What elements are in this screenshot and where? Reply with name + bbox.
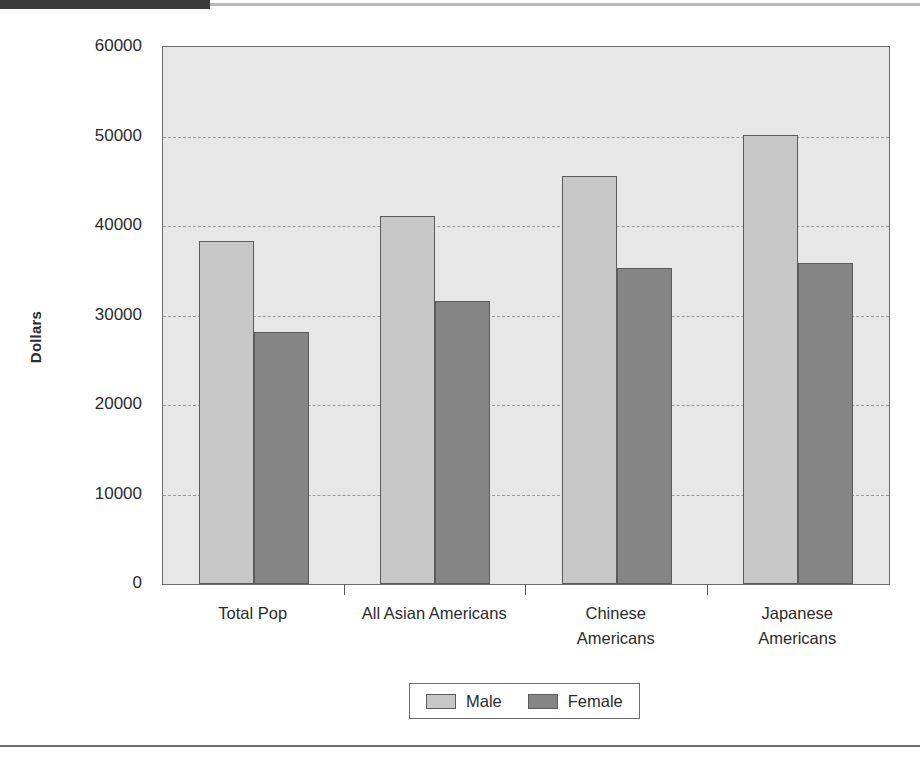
x-axis-label-line: Americans xyxy=(707,626,889,651)
page-bottom-rule xyxy=(0,745,920,747)
bar-female-3 xyxy=(798,263,853,584)
bar-female-0 xyxy=(254,332,309,584)
y-tick-label: 40000 xyxy=(56,216,142,233)
x-axis-label-line: Japanese xyxy=(707,601,889,626)
x-axis-label-line: Total Pop xyxy=(162,601,344,626)
y-tick-label: 20000 xyxy=(56,395,142,412)
legend-label: Female xyxy=(568,692,623,711)
bar-chart-figure: Dollars 6000050000400003000020000100000 … xyxy=(0,12,920,742)
x-axis-label-2: ChineseAmericans xyxy=(525,601,707,651)
legend-entry-male: Male xyxy=(426,692,502,711)
bar-male-3 xyxy=(743,135,798,584)
page-top-dark-tab xyxy=(0,0,210,9)
bar-male-2 xyxy=(562,176,617,584)
legend-label: Male xyxy=(466,692,502,711)
x-axis-label-line: Chinese xyxy=(525,601,707,626)
y-axis-title: Dollars xyxy=(27,282,44,392)
y-tick-label: 10000 xyxy=(56,485,142,502)
chart-legend: MaleFemale xyxy=(409,683,640,719)
x-axis-label-line: Americans xyxy=(525,626,707,651)
x-tick-mark xyxy=(525,584,526,595)
y-axis-tick-labels: 6000050000400003000020000100000 xyxy=(56,12,142,742)
x-tick-mark xyxy=(344,584,345,595)
x-tick-mark xyxy=(707,584,708,595)
legend-swatch-icon xyxy=(426,694,456,709)
y-tick-label: 30000 xyxy=(56,306,142,323)
x-axis-tick-marks xyxy=(162,584,890,596)
x-axis-label-line: All Asian Americans xyxy=(344,601,526,626)
y-tick-label: 60000 xyxy=(56,37,142,54)
legend-swatch-icon xyxy=(528,694,558,709)
x-axis-label-1: All Asian Americans xyxy=(344,601,526,626)
plot-area xyxy=(162,46,890,585)
bar-male-0 xyxy=(199,241,254,584)
x-axis-label-3: JapaneseAmericans xyxy=(707,601,889,651)
y-tick-label: 50000 xyxy=(56,127,142,144)
y-tick-label: 0 xyxy=(56,574,142,591)
x-axis-label-0: Total Pop xyxy=(162,601,344,626)
bar-male-1 xyxy=(380,216,435,584)
legend-entry-female: Female xyxy=(528,692,623,711)
x-axis-category-labels: Total PopAll Asian AmericansChineseAmeri… xyxy=(162,601,890,661)
bar-female-1 xyxy=(435,301,490,584)
bar-female-2 xyxy=(617,268,672,584)
